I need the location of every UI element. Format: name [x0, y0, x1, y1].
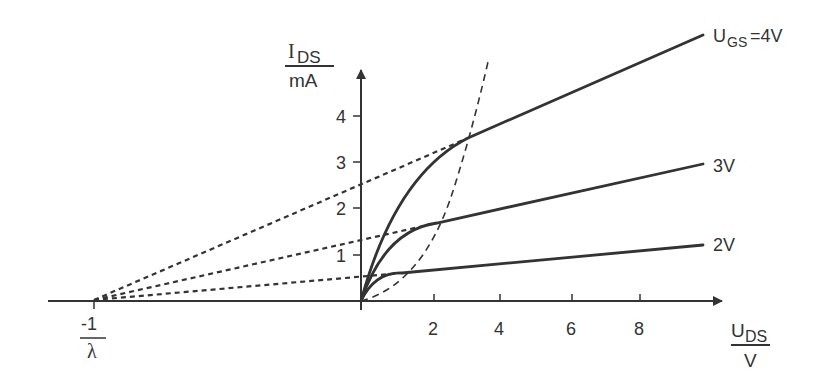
x-axis-label: U DS V	[731, 320, 770, 371]
characteristic-curves	[361, 35, 703, 301]
svg-text:λ: λ	[87, 340, 97, 362]
neg-inverse-lambda-label: -1 λ	[80, 314, 106, 362]
svg-text:GS: GS	[727, 34, 747, 50]
svg-text:DS: DS	[297, 48, 321, 67]
x-tick-8: 8	[634, 319, 644, 339]
y-tick-3: 3	[336, 153, 346, 173]
y-axis-label: I DS mA	[285, 40, 334, 91]
y-tick-2: 2	[336, 199, 346, 219]
x-tick-4: 4	[494, 319, 504, 339]
svg-text:U: U	[713, 26, 726, 46]
x-tick-6: 6	[566, 319, 576, 339]
extrapolation-lines	[94, 138, 468, 300]
svg-text:V: V	[744, 350, 757, 371]
svg-text:I: I	[288, 40, 295, 62]
x-tick-2: 2	[428, 319, 438, 339]
mosfet-output-chart: 4 3 2 1 2 4 6 8 -1 λ I DS mA U DS V	[0, 0, 818, 385]
y-tick-4: 4	[336, 107, 346, 127]
svg-text:DS: DS	[745, 328, 767, 345]
label-ugs-4v: U GS =4V	[713, 26, 783, 50]
label-ugs-2v: 2V	[713, 235, 735, 255]
curve-ugs-2v	[361, 245, 703, 301]
svg-text:-1: -1	[81, 314, 97, 334]
saturation-boundary	[361, 62, 488, 301]
label-ugs-3v: 3V	[713, 156, 735, 176]
svg-text:U: U	[731, 320, 745, 341]
svg-text:=4V: =4V	[750, 26, 783, 46]
y-tick-1: 1	[336, 246, 346, 266]
svg-text:mA: mA	[289, 70, 318, 91]
